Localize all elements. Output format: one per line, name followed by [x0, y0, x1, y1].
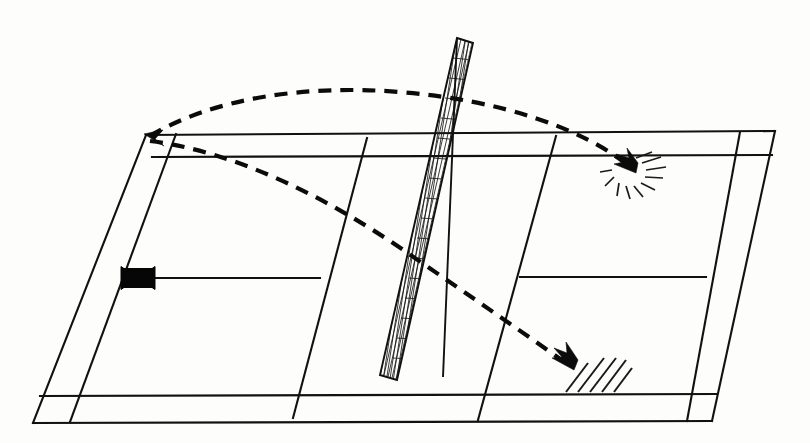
near-back-boundary-line [33, 421, 712, 423]
net-mesh-pattern [376, 32, 473, 404]
far-back-boundary-line [152, 155, 772, 157]
badminton-trajectory-diagram: striking player position net high clear … [0, 0, 810, 443]
trajectory-group [150, 90, 629, 361]
right-doubles-side-line [712, 131, 775, 421]
far-doubles-long-service-line [146, 131, 775, 135]
high-clear-trajectory [150, 90, 629, 166]
net-group [376, 32, 473, 404]
landing-arrowhead-rear-icon [614, 148, 638, 173]
landing-mark-near-court [552, 342, 632, 392]
court-diagram-canvas [0, 0, 810, 443]
player-position-marker [121, 267, 155, 290]
near-doubles-long-service-line [40, 394, 717, 396]
